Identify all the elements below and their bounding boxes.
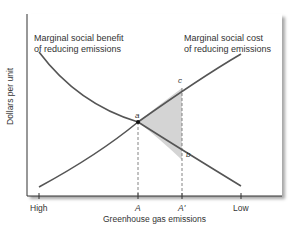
y-axis-label: Dollars per unit	[5, 68, 15, 125]
msb-label: Marginal social benefit of reducing emis…	[34, 33, 124, 55]
tick-label-high: High	[30, 203, 47, 213]
tick-label-a: A	[135, 203, 141, 213]
deadweight-loss-area	[138, 88, 182, 160]
point-a-marker	[136, 120, 140, 124]
point-c-label: c	[178, 76, 182, 85]
msc-label-line1: Marginal social cost	[184, 33, 271, 44]
point-a-label: a	[135, 111, 139, 120]
msc-label-line2: of reducing emissions	[184, 44, 271, 55]
msb-label-line2: of reducing emissions	[34, 44, 124, 55]
tick-label-low: Low	[233, 203, 249, 213]
msb-label-line1: Marginal social benefit	[34, 33, 124, 44]
point-b-label: b	[186, 150, 190, 159]
x-axis-label: Greenhouse gas emissions	[103, 214, 206, 224]
tick-label-aprime: A'	[178, 203, 185, 213]
msc-label: Marginal social cost of reducing emissio…	[184, 33, 271, 55]
